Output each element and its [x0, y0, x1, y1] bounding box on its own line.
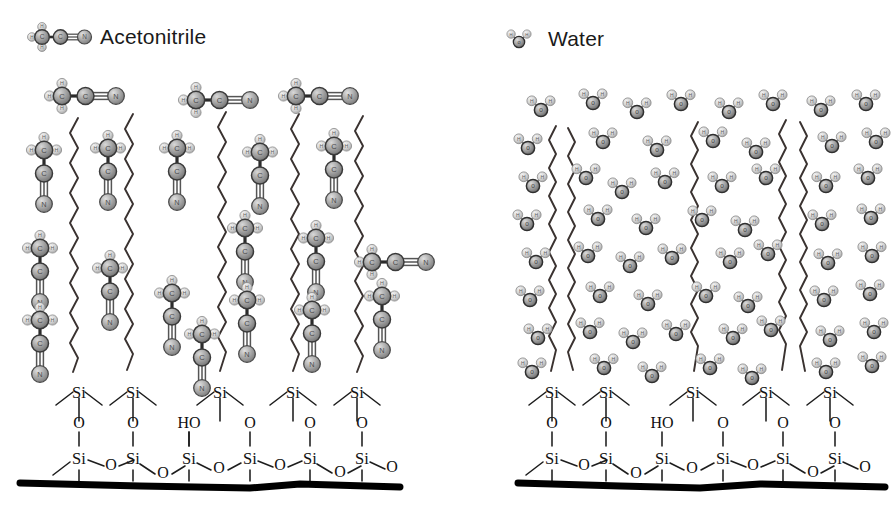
water-molecule: [513, 210, 541, 231]
water-molecule: [634, 290, 662, 311]
substrate-bar: [20, 483, 400, 488]
water-molecule: [590, 354, 618, 375]
acetonitrile-molecule: [159, 130, 194, 210]
water-molecule: [812, 358, 840, 379]
water-molecule: [519, 172, 547, 193]
si-label: Si: [350, 383, 364, 402]
water-molecule: [816, 326, 844, 347]
water-molecule: [754, 240, 782, 261]
water-molecule: [808, 210, 836, 231]
water-molecule: [738, 364, 766, 385]
si-label: Si: [182, 449, 196, 468]
o-label: O: [244, 414, 256, 431]
water-molecule: [719, 324, 747, 345]
water-molecule: [518, 358, 546, 379]
si-label: Si: [72, 383, 86, 402]
o-label: O: [859, 458, 871, 475]
water-molecule: [516, 286, 544, 307]
si-label: Si: [599, 383, 613, 402]
water-molecule: [862, 128, 890, 149]
water-molecule: [858, 352, 886, 373]
si-label: Si: [286, 383, 300, 402]
water-molecule: [651, 168, 679, 189]
si-label: Si: [716, 449, 730, 468]
si-label: Si: [759, 383, 773, 402]
water-molecule: [810, 286, 838, 307]
acetonitrile-molecule: [229, 282, 264, 362]
water-molecule: [667, 90, 695, 111]
o-label: O: [578, 456, 590, 473]
water-molecule: [857, 204, 885, 225]
alkyl-chain: [125, 114, 133, 370]
acetonitrile-molecule: [242, 134, 277, 214]
water-molecule: [807, 96, 835, 117]
acetonitrile-molecule: [364, 278, 399, 358]
water-molecule: [632, 214, 660, 235]
acetonitrile-panel: Si Si Si Si Si O O HO O O O Si Si Si Si …: [20, 78, 434, 488]
acetonitrile-molecule: [92, 250, 127, 330]
acetonitrile-molecule: [294, 292, 329, 372]
si-label: Si: [545, 383, 559, 402]
water-molecule: [638, 362, 666, 383]
si-label: Si: [72, 449, 86, 468]
o-label: O: [747, 456, 759, 473]
water-molecule: [662, 320, 690, 341]
water-molecule: [699, 127, 727, 148]
water-molecule: [619, 328, 647, 349]
water-molecule: [852, 90, 880, 111]
water-molecule: [616, 252, 644, 273]
water-molecule: [574, 242, 602, 263]
water-molecule: [522, 248, 550, 269]
water-molecule: [854, 164, 882, 185]
o-label: O: [717, 414, 729, 431]
alkyl-chain: [568, 128, 575, 370]
water-molecule: [623, 98, 651, 119]
o-label: O: [304, 414, 316, 431]
water-molecule: [589, 128, 617, 149]
water-molecule: [572, 164, 600, 185]
water-molecule: [524, 324, 552, 345]
water-molecule: [696, 354, 724, 375]
water-molecule: [856, 280, 884, 301]
si-label: Si: [823, 383, 837, 402]
alkyl-chain: [291, 114, 299, 371]
hydroxyl-label: HO: [650, 414, 673, 431]
hydroxyl-label: HO: [177, 414, 200, 431]
water-molecule: [742, 138, 770, 159]
water-molecule: [812, 172, 840, 193]
si-label: Si: [686, 383, 700, 402]
water-molecule: [715, 98, 743, 119]
acetonitrile-molecule: [278, 78, 358, 113]
alkyl-chain: [691, 122, 698, 371]
si-label: Si: [776, 449, 790, 468]
acetonitrile-molecule: [22, 302, 57, 382]
acetonitrile-molecule: [90, 130, 125, 210]
acetonitrile-molecule: [178, 82, 258, 117]
o-label: O: [386, 458, 398, 475]
water-molecule: [579, 89, 607, 110]
water-molecule: [734, 292, 762, 313]
water-molecule: [608, 178, 636, 199]
si-label: Si: [545, 449, 559, 468]
acetonitrile-molecule: [227, 210, 262, 290]
o-label: O: [686, 459, 698, 476]
water-molecule: [752, 164, 780, 185]
o-label: O: [105, 456, 117, 473]
water-molecule: [586, 282, 614, 303]
o-label: O: [274, 456, 286, 473]
water-molecule: [643, 136, 671, 157]
si-label: Si: [355, 449, 369, 468]
acetonitrile-molecule: [44, 78, 124, 113]
water-molecule-icon: [507, 30, 531, 48]
o-label: O: [334, 463, 346, 480]
water-molecule: [658, 244, 686, 265]
water-molecule: [814, 249, 842, 270]
o-label: O: [829, 414, 841, 431]
water-panel: Si Si Si Si Si O O HO O O O Si Si Si Si …: [513, 89, 890, 488]
si-label: Si: [213, 383, 227, 402]
alkyl-chain: [549, 126, 556, 371]
o-label: O: [600, 414, 612, 431]
o-label: O: [356, 414, 368, 431]
o-label: O: [73, 414, 85, 431]
substrate-bar: [518, 483, 885, 488]
